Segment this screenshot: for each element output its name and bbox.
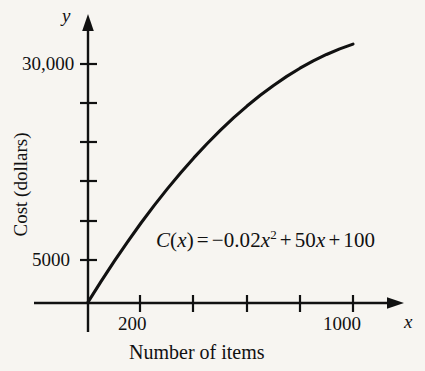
equation-argument: x <box>177 228 186 252</box>
equation-equals-sign: = <box>197 228 209 252</box>
y-tick-label-30000: 30,000 <box>22 54 74 73</box>
equation-close-paren: ) <box>187 228 194 252</box>
equation-exponent: 2 <box>270 227 277 242</box>
x-axis-variable-label: x <box>404 312 412 331</box>
equation-function-name: C <box>156 228 170 252</box>
equation-annotation: C(x)=−0.02x2+50x+100 <box>156 230 375 251</box>
equation-linear-variable: x <box>316 228 325 252</box>
x-tick-label-200: 200 <box>118 314 147 333</box>
equation-minus-sign: − <box>212 228 224 252</box>
y-axis-title: Cost (dollars) <box>11 125 30 245</box>
x-axis-arrowhead <box>387 297 404 309</box>
y-axis-variable-label: y <box>62 6 70 25</box>
y-axis-arrowhead <box>82 14 94 31</box>
x-axis-title: Number of items <box>129 342 265 362</box>
cost-curve <box>88 44 353 302</box>
equation-linear-coefficient: 50 <box>295 228 316 252</box>
equation-constant-term: 100 <box>343 228 375 252</box>
x-tick-label-1000: 1000 <box>323 314 361 333</box>
equation-quadratic-coefficient: 0.02 <box>224 228 261 252</box>
equation-plus-sign-2: + <box>328 228 340 252</box>
equation-plus-sign-1: + <box>280 228 292 252</box>
cost-function-figure: y x 30,000 5000 200 1000 Cost (dollars) … <box>0 0 425 371</box>
equation-quadratic-variable: x <box>261 228 270 252</box>
y-tick-label-5000: 5000 <box>32 250 70 269</box>
